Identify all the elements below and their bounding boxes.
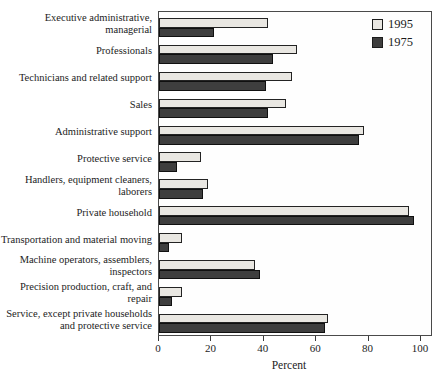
bar-1975	[159, 162, 177, 172]
category-label: Private household	[0, 199, 158, 226]
bar-1995	[159, 206, 409, 216]
x-tick-mark	[368, 336, 369, 341]
legend-swatch-1975	[372, 37, 383, 48]
bar-rows	[159, 12, 431, 335]
bar-group	[159, 227, 431, 254]
legend-item-1995: 1995	[372, 17, 413, 32]
bar-1995	[159, 179, 208, 189]
bar-1995	[159, 233, 182, 243]
x-axis-title: Percent	[272, 359, 306, 371]
bar-group	[159, 93, 431, 120]
legend-item-1975: 1975	[372, 35, 413, 50]
x-tick-label: 100	[412, 342, 429, 354]
bar-1995	[159, 314, 328, 324]
category-label: Executive administrative, managerial	[0, 11, 158, 38]
bar-1975	[159, 108, 268, 118]
category-label: Service, except private households and p…	[0, 307, 158, 334]
bar-1975	[159, 323, 325, 333]
x-tick-mark	[158, 336, 159, 341]
category-label: Precision production, craft, and repair	[0, 280, 158, 307]
x-tick-mark	[420, 336, 421, 341]
chart: Executive administrative, managerialProf…	[0, 0, 441, 381]
bar-1975	[159, 28, 214, 38]
bar-group	[159, 308, 431, 335]
bar-1995	[159, 126, 364, 136]
bar-1995	[159, 260, 255, 270]
bar-group	[159, 146, 431, 173]
legend-label-1975: 1975	[388, 35, 413, 50]
bar-1975	[159, 297, 172, 307]
category-label: Transportation and material moving	[0, 226, 158, 253]
chart-body: Executive administrative, managerialProf…	[0, 0, 441, 336]
category-label: Protective service	[0, 145, 158, 172]
bar-group	[159, 173, 431, 200]
x-axis: 020406080100 Percent	[158, 336, 432, 381]
x-tick-mark	[315, 336, 316, 341]
bar-1975	[159, 189, 203, 199]
bar-1995	[159, 45, 297, 55]
bar-group	[159, 254, 431, 281]
plot-area: 1995 1975	[158, 11, 432, 336]
bar-group	[159, 66, 431, 93]
bar-1975	[159, 243, 169, 253]
category-label: Machine operators, assemblers, inspector…	[0, 253, 158, 280]
bar-1995	[159, 18, 268, 28]
x-tick-mark	[263, 336, 264, 341]
category-label: Professionals	[0, 38, 158, 65]
bar-group	[159, 120, 431, 147]
bar-1995	[159, 287, 182, 297]
category-label: Sales	[0, 92, 158, 119]
bar-1975	[159, 54, 273, 64]
x-tick-label: 40	[257, 342, 268, 354]
bar-1975	[159, 135, 359, 145]
bar-1975	[159, 216, 414, 226]
category-label: Administrative support	[0, 119, 158, 146]
bar-group	[159, 281, 431, 308]
category-label: Handlers, equipment cleaners, laborers	[0, 172, 158, 199]
x-tick-label: 60	[310, 342, 321, 354]
category-label: Technicians and related support	[0, 65, 158, 92]
x-tick-label: 80	[362, 342, 373, 354]
bar-group	[159, 200, 431, 227]
bar-1995	[159, 152, 201, 162]
bar-1975	[159, 270, 260, 280]
bar-1995	[159, 72, 292, 82]
legend-label-1995: 1995	[388, 17, 413, 32]
bar-1975	[159, 81, 266, 91]
x-tick-label: 20	[205, 342, 216, 354]
category-labels: Executive administrative, managerialProf…	[0, 11, 158, 336]
legend-swatch-1995	[372, 19, 383, 30]
legend: 1995 1975	[372, 17, 413, 50]
x-tick-label: 0	[155, 342, 161, 354]
bar-1995	[159, 99, 286, 109]
x-tick-mark	[210, 336, 211, 341]
